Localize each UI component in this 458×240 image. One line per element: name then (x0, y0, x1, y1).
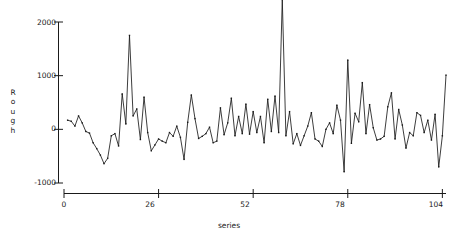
x-tick-label: 104 (424, 200, 448, 209)
y-tick-label: -1000 (34, 178, 56, 187)
y-axis-title-letter: o (11, 97, 16, 106)
data-series-line (68, 0, 446, 172)
y-axis-title-letter: R (10, 88, 15, 97)
y-axis-title-letter: h (11, 126, 16, 135)
y-axis-title: R o u g h (6, 88, 20, 135)
x-tick-label: 26 (140, 200, 160, 209)
x-axis-title: series (0, 221, 458, 230)
x-tick-label: 78 (330, 200, 350, 209)
y-tick-label: 0 (51, 124, 56, 133)
y-axis-title-letter: u (11, 107, 16, 116)
data-point-markers (67, 0, 447, 172)
y-tick-label: 2000 (37, 18, 56, 27)
x-tick-label: 52 (235, 200, 255, 209)
x-tick-label: 0 (54, 200, 74, 209)
chart-container: R o u g h 2000 1000 0 -1000 0 26 52 78 1… (0, 0, 458, 240)
y-tick-label: 1000 (37, 71, 56, 80)
y-axis-title-letter: g (11, 116, 16, 125)
